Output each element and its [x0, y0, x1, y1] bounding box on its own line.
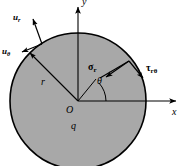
y-axis-label: y [82, 0, 86, 7]
radial-displacement-label: ur [13, 13, 20, 23]
angle-label: θ [97, 76, 102, 86]
origin-label: O [66, 105, 73, 115]
load-label: q [71, 121, 76, 131]
tangential-displacement-subscript: θ [7, 51, 10, 57]
radial-displacement-arrow [33, 19, 42, 44]
normal-stress-subscript: r [93, 66, 96, 73]
figure-container: ur uθ σr τrθ r θ O x y q [0, 0, 189, 166]
tangential-displacement-label: uθ [2, 47, 10, 57]
polar-disk-figure [0, 0, 189, 166]
x-axis-label: x [172, 107, 176, 117]
normal-stress-label: σr [88, 62, 96, 74]
radius-label: r [41, 77, 45, 87]
radial-displacement-subscript: r [18, 17, 20, 23]
shear-stress-label: τrθ [146, 63, 157, 75]
shear-stress-subscript: rθ [151, 67, 158, 74]
